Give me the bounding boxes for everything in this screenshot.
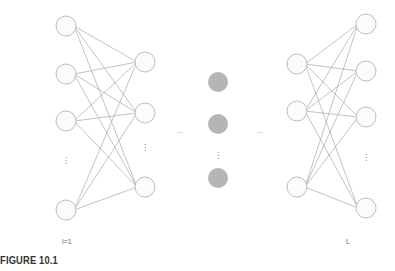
- neuron: [135, 177, 155, 197]
- hidden-neuron: [208, 114, 228, 134]
- hidden-neuron: [208, 72, 228, 92]
- edge: [74, 62, 137, 74]
- edge: [305, 111, 358, 208]
- edge: [74, 26, 137, 187]
- neuron: [356, 107, 376, 127]
- horizontal-ellipsis: ...: [257, 127, 263, 134]
- neuron: [356, 61, 376, 81]
- edge: [74, 62, 137, 210]
- hidden-neuron: [208, 168, 228, 188]
- neuron: [135, 103, 155, 123]
- edge: [74, 187, 137, 210]
- edge: [305, 24, 358, 111]
- figure-caption: FIGURE 10.1: [0, 254, 58, 266]
- neuron: [356, 198, 376, 218]
- edge: [305, 24, 358, 64]
- neuron: [56, 64, 76, 84]
- edge: [74, 26, 137, 113]
- edge: [305, 64, 358, 208]
- edge: [305, 111, 358, 117]
- edge: [305, 24, 358, 187]
- vertical-ellipsis: ⋮: [362, 153, 370, 162]
- edge: [74, 26, 137, 62]
- edge: [305, 187, 358, 208]
- neuron: [135, 52, 155, 72]
- edge: [305, 71, 358, 187]
- neuron: [356, 14, 376, 34]
- neuron: [287, 177, 307, 197]
- neuron: [287, 54, 307, 74]
- edge: [74, 113, 137, 210]
- neuron: [56, 16, 76, 36]
- vertical-ellipsis: ⋮: [62, 156, 70, 165]
- vertical-ellipsis: ⋮: [141, 143, 149, 152]
- horizontal-ellipsis: ...: [177, 127, 183, 134]
- edge: [74, 113, 137, 121]
- first-layer-label: l=1: [62, 238, 72, 245]
- neuron: [56, 200, 76, 220]
- last-layer-label: L: [346, 238, 350, 245]
- neuron: [287, 101, 307, 121]
- edge: [305, 117, 358, 187]
- edge: [305, 64, 358, 117]
- vertical-ellipsis: ⋮: [214, 151, 222, 160]
- neuron: [56, 111, 76, 131]
- neural-network-diagram: ⋮⋮⋮⋮......: [0, 0, 395, 271]
